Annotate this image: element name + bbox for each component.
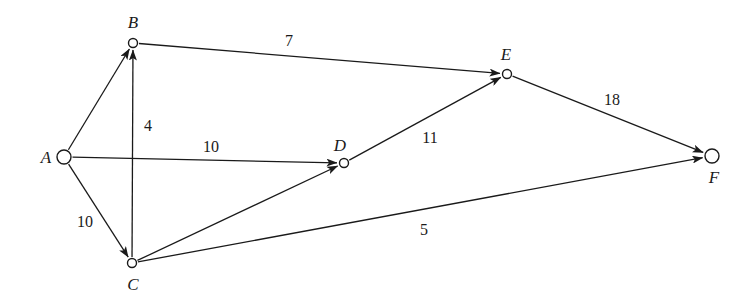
edge-weight-e-f: 18 bbox=[604, 92, 620, 108]
node-e[interactable] bbox=[503, 70, 512, 79]
edge-weight-c-b: 4 bbox=[144, 118, 152, 134]
node-d[interactable] bbox=[340, 159, 349, 168]
node-c[interactable] bbox=[128, 259, 137, 268]
edge-weight-d-e: 11 bbox=[422, 130, 437, 146]
edge-layer bbox=[68, 43, 703, 261]
graph-diagram: 41010711185ABCDEF bbox=[0, 0, 755, 303]
graph-canvas bbox=[0, 0, 755, 303]
node-a[interactable] bbox=[57, 150, 71, 164]
edge-b-e bbox=[139, 43, 500, 73]
edge-e-f bbox=[513, 76, 704, 152]
node-label-d: D bbox=[334, 137, 346, 154]
node-label-f: F bbox=[709, 169, 719, 186]
edge-a-b bbox=[68, 49, 129, 150]
edge-d-e bbox=[349, 77, 501, 160]
edge-weight-c-f: 5 bbox=[420, 222, 428, 238]
node-label-c: C bbox=[127, 276, 138, 293]
node-label-b: B bbox=[128, 14, 138, 31]
edge-c-d bbox=[137, 166, 337, 260]
edge-a-d bbox=[72, 157, 337, 163]
node-label-a: A bbox=[41, 149, 51, 166]
node-b[interactable] bbox=[129, 39, 138, 48]
node-f[interactable] bbox=[705, 149, 719, 163]
edge-c-f bbox=[138, 158, 703, 262]
edge-a-c bbox=[69, 164, 129, 257]
node-layer bbox=[57, 39, 719, 268]
node-label-e: E bbox=[501, 46, 511, 63]
edge-c-b bbox=[132, 50, 133, 257]
edge-weight-a-c: 10 bbox=[77, 214, 93, 230]
edge-weight-b-e: 7 bbox=[285, 33, 293, 49]
edge-weight-a-d: 10 bbox=[203, 139, 219, 155]
